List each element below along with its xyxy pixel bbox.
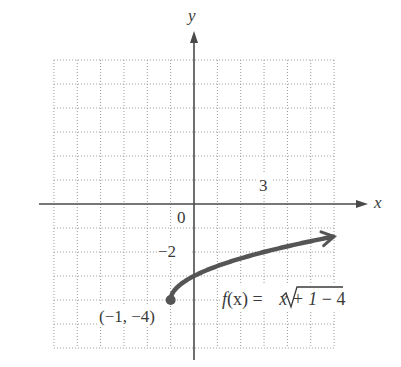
x-axis-label: x bbox=[373, 193, 382, 212]
start-point-label: (−1, −4) bbox=[99, 307, 155, 326]
function-graph: x y 0 3−2 (−1, −4) f(x) = x + 1 − 4 bbox=[0, 0, 401, 367]
function-tail: − 4 bbox=[317, 289, 345, 309]
function-label: f(x) = x + 1 − 4 bbox=[222, 289, 345, 310]
y-tick-label: −2 bbox=[158, 242, 176, 261]
function-radicand: x + 1 bbox=[278, 289, 317, 309]
function-arg: (x) = bbox=[227, 289, 267, 310]
y-axis-arrowhead bbox=[190, 31, 198, 43]
x-axis-arrowhead bbox=[356, 200, 368, 208]
x-tick-label: 3 bbox=[259, 176, 268, 195]
origin-label: 0 bbox=[177, 208, 186, 227]
y-axis-label: y bbox=[186, 6, 196, 25]
start-point-marker bbox=[166, 295, 176, 305]
